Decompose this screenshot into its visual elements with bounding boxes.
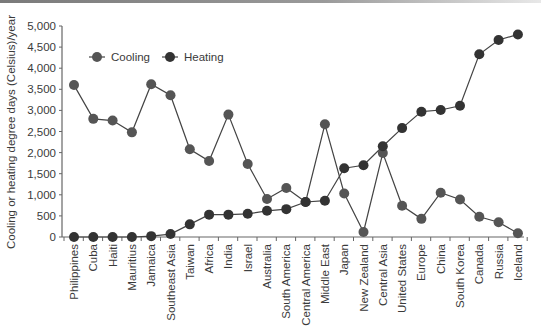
y-axis-label: Cooling or heating degree days (Celsius)… [5,15,17,249]
series-cooling [74,84,518,233]
series-line [74,84,518,233]
x-tick-label: Taiwan [184,244,196,280]
x-tick-label: Jamaica [145,243,157,286]
y-tick-label: 5,000 [27,20,56,32]
x-tick-label: India [222,243,234,269]
data-point [359,227,369,237]
data-point [378,141,388,151]
data-point [455,101,465,111]
x-tick-label: Russia [493,243,505,279]
data-point [416,214,426,224]
data-point [339,163,349,173]
x-tick-label: Europe [415,244,427,281]
data-point [185,219,195,229]
x-tick-label: Japan [338,244,350,275]
y-tick-label: 2,500 [27,126,56,138]
y-tick-label: 3,000 [27,104,56,116]
data-point [262,206,272,216]
data-point [88,232,98,242]
x-tick-label: Israel [242,244,254,272]
y-axis: 05001,0001,5002,0002,5003,0003,5004,0004… [27,20,62,243]
x-tick-label: Australia [261,243,273,288]
data-point [474,212,484,222]
data-point [494,35,504,45]
data-point [69,232,79,242]
legend-label: Cooling [111,51,150,63]
data-point [166,90,176,100]
x-axis: PhilippinesCubaHaitiMauritiusJamaicaSout… [62,237,527,326]
data-point [474,49,484,59]
legend-marker-icon [165,52,175,62]
data-point [204,156,214,166]
data-point [146,79,156,89]
y-tick-label: 4,500 [27,41,56,53]
x-tick-label: China [435,243,447,274]
x-tick-label: Middle East [319,243,331,304]
data-point [455,194,465,204]
y-tick-label: 500 [37,210,56,222]
x-tick-label: South America [280,243,292,318]
x-tick-label: Canada [473,243,485,284]
data-point [281,183,291,193]
data-point [320,119,330,129]
x-tick-label: Iceland [512,244,524,281]
data-point [436,188,446,198]
x-tick-label: Cuba [87,243,99,271]
x-tick-label: Central America [300,243,312,325]
series-heating [74,34,518,237]
legend-item-heating: Heating [162,51,224,63]
data-point [108,116,118,126]
y-tick-label: 1,000 [27,189,56,201]
data-point [262,194,272,204]
x-tick-label: United States [396,244,408,313]
legend-item-cooling: Cooling [89,51,150,63]
x-tick-label: Southeast Asia [165,243,177,320]
data-point [397,123,407,133]
data-point [301,197,311,207]
x-tick-label: Africa [203,243,215,273]
x-tick-label: Central Asia [377,243,389,306]
data-point [359,160,369,170]
data-point [146,231,156,241]
data-point [127,127,137,137]
markers-cooling [69,79,523,238]
data-point [108,232,118,242]
data-point [223,110,233,120]
x-tick-label: New Zealand [358,244,370,312]
data-point [513,29,523,39]
y-tick-label: 0 [50,231,56,243]
data-point [339,189,349,199]
data-point [436,105,446,115]
data-point [223,210,233,220]
data-point [204,210,214,220]
x-tick-label: Philippines [68,244,80,300]
data-point [88,114,98,124]
legend-label: Heating [184,51,224,63]
data-point [320,196,330,206]
data-point [166,229,176,239]
data-point [416,107,426,117]
data-point [281,204,291,214]
data-point [127,232,137,242]
line-chart: 05001,0001,5002,0002,5003,0003,5004,0004… [0,0,541,333]
data-point [243,159,253,169]
x-tick-label: Haiti [107,244,119,267]
data-point [69,80,79,90]
data-point [494,217,504,227]
y-tick-label: 2,000 [27,147,56,159]
legend: CoolingHeating [89,51,224,63]
data-point [397,201,407,211]
data-point [185,144,195,154]
y-tick-label: 4,000 [27,62,56,74]
series-line [74,34,518,237]
y-tick-label: 1,500 [27,168,56,180]
data-point [243,209,253,219]
y-tick-label: 3,500 [27,83,56,95]
data-point [513,228,523,238]
x-tick-label: South Korea [454,243,466,308]
x-tick-label: Mauritius [126,244,138,291]
legend-marker-icon [92,52,102,62]
